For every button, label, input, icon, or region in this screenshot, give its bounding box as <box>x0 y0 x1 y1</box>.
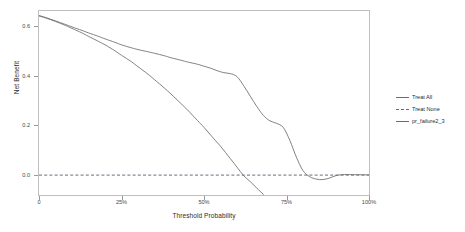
y-axis-title: Net Benefit <box>13 18 20 138</box>
legend-item[interactable]: Treat None <box>396 104 464 115</box>
legend-line-icon <box>396 93 409 102</box>
chart-legend: Treat AllTreat Nonepr_failure2_3 <box>396 92 464 128</box>
legend-item[interactable]: pr_failure2_3 <box>396 116 464 127</box>
legend-item[interactable]: Treat All <box>396 92 464 103</box>
legend-item-label: Treat None <box>412 106 440 113</box>
x-tick-mark <box>204 196 205 200</box>
chart-root: 0.00.20.40.6 025%50%75%100% Net Benefit … <box>0 0 465 232</box>
x-tick-mark <box>369 196 370 200</box>
x-tick-mark <box>39 196 40 200</box>
legend-line-icon <box>396 105 409 114</box>
x-tick-mark <box>122 196 123 200</box>
legend-item-label: Treat All <box>412 94 432 101</box>
legend-line-icon <box>396 117 409 126</box>
x-axis-title: Threshold Probability <box>38 212 370 219</box>
legend-item-label: pr_failure2_3 <box>412 118 445 125</box>
x-tick-mark <box>287 196 288 200</box>
